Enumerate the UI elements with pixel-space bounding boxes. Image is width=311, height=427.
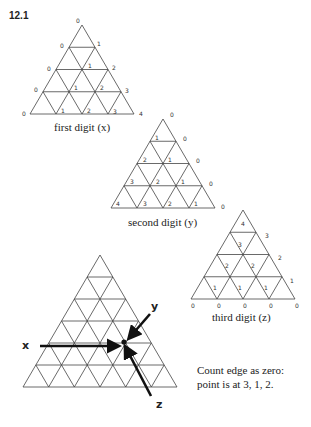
digit-label: 0	[243, 302, 247, 309]
digit-label: 3	[265, 232, 269, 239]
digit-label: 0	[209, 180, 213, 187]
digit-label: 0	[196, 157, 200, 164]
first-digit-caption: first digit (x)	[54, 121, 111, 134]
digit-label: 2	[168, 200, 172, 207]
y-arrow-icon	[130, 314, 150, 337]
digit-label: 0	[295, 302, 299, 309]
digit-label: 0	[22, 110, 26, 117]
digit-label: 2	[278, 254, 282, 261]
digit-label: 0	[76, 17, 80, 24]
digit-label: 1	[181, 178, 185, 185]
triangle-grid	[30, 25, 134, 114]
digit-label: 1	[88, 62, 92, 69]
digit-label: 0	[170, 111, 174, 118]
digit-label: 0	[217, 302, 221, 309]
z-arrow-icon	[126, 348, 151, 396]
figure-label: 12.1	[9, 10, 29, 21]
digit-label: 2	[112, 64, 116, 71]
point-marker	[121, 339, 126, 344]
digit-label: 1	[168, 156, 172, 163]
digit-label: 2	[100, 84, 104, 91]
digit-label: 0	[34, 86, 38, 93]
digit-label: 1	[264, 284, 268, 291]
digit-label: 4	[139, 110, 143, 117]
digit-label: 0	[221, 203, 225, 210]
digit-label: 1	[238, 284, 242, 291]
digit-label: 1	[155, 134, 159, 141]
triangle-grid	[23, 255, 177, 387]
digit-label: 0	[191, 302, 195, 309]
digit-label: 1	[61, 107, 65, 114]
digit-label: 4	[116, 200, 120, 207]
third-digit-caption: third digit (z)	[212, 311, 271, 324]
digit-label: 1	[213, 284, 217, 291]
second-digit-triangle: 010210321043210	[111, 111, 225, 210]
digit-label: 0	[269, 302, 273, 309]
digit-label: 1	[290, 277, 294, 284]
digit-label: 4	[241, 220, 245, 227]
digit-label: 3	[113, 108, 117, 115]
axis-arrows: xyz	[22, 300, 162, 411]
digit-label: 3	[143, 200, 147, 207]
note-line-1: Count edge as zero:	[197, 364, 284, 376]
digit-label: 2	[225, 262, 229, 269]
z-axis-label: z	[156, 398, 162, 411]
example-triangle	[23, 255, 177, 387]
digit-label: 2	[87, 107, 91, 114]
digit-label: 0	[183, 135, 187, 142]
second-digit-caption: second digit (y)	[128, 216, 197, 229]
digit-label: 3	[238, 241, 242, 248]
y-axis-label: y	[151, 300, 158, 313]
digit-label: 2	[143, 156, 147, 163]
diagram-canvas: 12.1 001012012301234 first digit (x) 010…	[0, 0, 311, 427]
x-axis-label: x	[22, 339, 29, 352]
digit-label: 0	[60, 42, 64, 49]
third-digit-triangle: 433222111100000	[191, 210, 299, 309]
digit-label: 3	[130, 178, 134, 185]
note-line-2: point is at 3, 1, 2.	[197, 378, 274, 390]
digit-label: 1	[74, 84, 78, 91]
digit-label: 1	[97, 40, 101, 47]
first-digit-triangle: 001012012301234	[22, 17, 143, 117]
digit-label: 1	[194, 200, 198, 207]
digit-label: 2	[251, 262, 255, 269]
digit-label: 3	[125, 87, 129, 94]
digit-label: 2	[156, 178, 160, 185]
digit-label: 0	[47, 65, 51, 72]
